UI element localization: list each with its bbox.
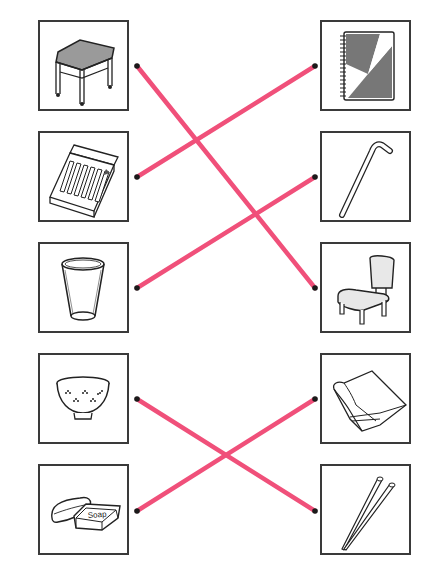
anchor-dot-left-3[interactable] bbox=[134, 285, 140, 291]
match-line-stool-to-chair bbox=[137, 66, 315, 288]
card-right-hook-rod[interactable]: hooked rod bbox=[320, 131, 411, 222]
cup-icon bbox=[40, 244, 127, 331]
card-right-chopsticks[interactable]: chopsticks bbox=[320, 464, 411, 555]
soap-text: Soap bbox=[88, 510, 108, 520]
stool-icon bbox=[40, 22, 127, 109]
chair-icon bbox=[322, 244, 409, 331]
anchor-dot-right-4[interactable] bbox=[312, 396, 318, 402]
anchor-dot-left-1[interactable] bbox=[134, 63, 140, 69]
chopsticks-icon bbox=[322, 466, 409, 553]
card-left-cup[interactable]: cup bbox=[38, 242, 129, 333]
match-line-cup-to-hook-rod bbox=[137, 177, 315, 288]
card-left-stool[interactable]: stool bbox=[38, 20, 129, 111]
crayon-box-icon bbox=[40, 133, 127, 220]
soap-icon: Soap bbox=[40, 466, 127, 553]
anchor-dot-right-1[interactable] bbox=[312, 63, 318, 69]
card-left-soap[interactable]: soap Soap bbox=[38, 464, 129, 555]
card-right-notebook[interactable]: notebook bbox=[320, 20, 411, 111]
anchor-dot-left-4[interactable] bbox=[134, 396, 140, 402]
hook-rod-icon bbox=[322, 133, 409, 220]
card-right-chair[interactable]: chair bbox=[320, 242, 411, 333]
towel-icon bbox=[322, 355, 409, 442]
card-left-crayons[interactable]: box of crayons bbox=[38, 131, 129, 222]
anchor-dot-left-2[interactable] bbox=[134, 174, 140, 180]
anchor-dot-left-5[interactable] bbox=[134, 508, 140, 514]
notebook-icon bbox=[322, 22, 409, 109]
card-right-towel[interactable]: towel bbox=[320, 353, 411, 444]
anchor-dot-right-2[interactable] bbox=[312, 174, 318, 180]
rice-bowl-icon bbox=[40, 355, 127, 442]
anchor-dot-right-5[interactable] bbox=[312, 508, 318, 514]
card-left-rice-bowl[interactable]: rice bowl bbox=[38, 353, 129, 444]
match-line-crayons-to-notebook bbox=[137, 66, 315, 177]
anchor-dot-right-3[interactable] bbox=[312, 285, 318, 291]
